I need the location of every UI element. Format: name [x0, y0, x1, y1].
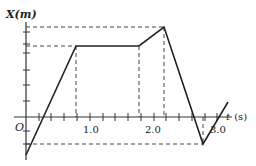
x-tick-label-1: 1.0 [83, 124, 99, 135]
x-tick-label-2: 2.0 [145, 124, 161, 135]
x-tick-label-3: 3.0 [210, 124, 226, 135]
x-axis-label: t (s) [226, 111, 247, 122]
position-time-chart: X(m) O 1.0 2.0 3.0 t (s) [0, 0, 256, 166]
origin-label: O [15, 121, 24, 134]
y-axis-label: X(m) [5, 8, 37, 21]
dashed-guides [26, 27, 203, 144]
x-axis-unit: (s) [234, 111, 247, 122]
x-axis-var: t [226, 111, 231, 122]
